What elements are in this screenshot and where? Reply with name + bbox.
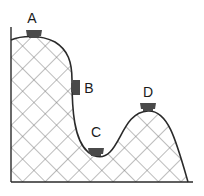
roller-coaster-diagram [0, 0, 204, 196]
label-c: C [91, 125, 101, 139]
label-d: D [143, 85, 153, 99]
cart-d-icon [140, 103, 156, 111]
label-b: B [84, 81, 93, 95]
hill-terrain [0, 0, 204, 196]
label-a: A [27, 11, 36, 25]
